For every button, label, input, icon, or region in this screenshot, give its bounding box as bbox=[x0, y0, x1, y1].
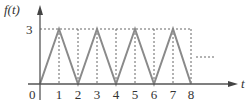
y-axis-arrow-icon bbox=[37, 5, 43, 15]
y-axis-label: f(t) bbox=[4, 2, 20, 17]
x-tick-1: 1 bbox=[56, 87, 63, 102]
x-tick-7: 7 bbox=[170, 87, 177, 102]
x-tick-8: 8 bbox=[188, 87, 195, 102]
x-tick-labels: 1 2 3 4 5 6 7 8 bbox=[56, 87, 195, 102]
x-tick-4: 4 bbox=[113, 87, 120, 102]
x-axis-arrow-icon bbox=[228, 81, 238, 87]
x-tick-2: 2 bbox=[75, 87, 82, 102]
origin-label: 0 bbox=[29, 87, 36, 102]
y-tick-3: 3 bbox=[26, 22, 33, 37]
x-tick-5: 5 bbox=[132, 87, 139, 102]
x-axis-label: t bbox=[241, 76, 245, 91]
chart: f(t) 3 t 0 1 2 3 4 5 6 7 8 bbox=[0, 0, 249, 109]
x-tick-3: 3 bbox=[94, 87, 101, 102]
x-tick-6: 6 bbox=[151, 87, 158, 102]
